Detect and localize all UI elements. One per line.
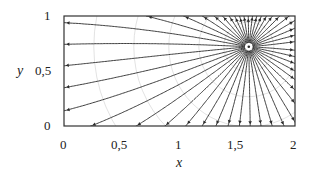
arrowhead-icon xyxy=(67,21,70,25)
streamline xyxy=(228,51,248,126)
y-tick-1: 1 xyxy=(44,9,51,22)
arrowhead-icon xyxy=(228,120,231,123)
streamline xyxy=(164,50,246,127)
streamline xyxy=(63,48,245,88)
arrowhead-icon xyxy=(238,121,242,124)
arrowhead-icon xyxy=(247,19,251,22)
y-axis-label: y xyxy=(17,64,23,78)
arrowhead-icon xyxy=(66,85,69,89)
arrowhead-icon xyxy=(290,35,293,38)
streamline xyxy=(64,48,245,111)
streamline xyxy=(239,51,248,127)
arrowhead-icon xyxy=(248,121,252,124)
arrowhead-icon xyxy=(254,18,257,21)
stream-plot xyxy=(0,0,311,173)
streamline xyxy=(202,16,246,45)
streamlines xyxy=(63,15,296,128)
source-point xyxy=(248,46,251,49)
streamline xyxy=(186,50,247,126)
arrowhead-icon xyxy=(66,64,69,68)
x-axis-label: x xyxy=(176,156,182,170)
x-tick-1: 1 xyxy=(175,138,182,151)
x-tick-1-5: 1,5 xyxy=(227,138,243,151)
arrowhead-icon xyxy=(250,18,254,21)
arrowhead-icon xyxy=(66,42,69,46)
streamline xyxy=(63,44,244,47)
y-tick-0: 0 xyxy=(44,119,51,132)
streamline xyxy=(63,47,245,66)
x-tick-0: 0 xyxy=(60,138,67,151)
streamline xyxy=(249,51,250,128)
arrowhead-icon xyxy=(290,48,293,52)
arrowhead-icon xyxy=(67,108,70,111)
y-tick-0-5: 0,5 xyxy=(35,64,51,77)
streamline xyxy=(146,16,245,46)
arrowhead-icon xyxy=(289,54,292,58)
streamline xyxy=(252,49,296,80)
x-tick-0-5: 0,5 xyxy=(111,138,127,151)
x-tick-2: 2 xyxy=(290,138,297,151)
